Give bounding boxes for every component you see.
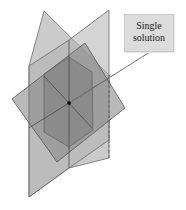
- callout-line-2: solution: [125, 32, 173, 44]
- solution-point: [67, 101, 71, 105]
- callout-line-1: Single: [125, 20, 173, 32]
- callout-box: Single solution: [124, 14, 174, 52]
